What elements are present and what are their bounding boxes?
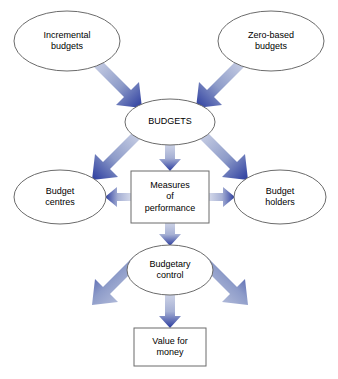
arrow-measures-to-budgetary-control [159,223,181,246]
node-shape-budgets [125,99,215,145]
node-shape-zero-based-budgets [218,11,324,71]
node-shape-measures-of-performance [131,171,209,223]
node-shape-incremental-budgets [14,11,120,71]
arrow-budgetary-control-to-value-for-money [159,295,181,328]
diagram-canvas: Incremental budgets Zero-based budgets B… [0,0,338,379]
node-shape-budgetary-control [127,245,213,295]
node-shape-budget-centres [14,170,106,224]
arrow-measures-to-budget-holders [209,187,235,207]
node-shape-value-for-money [134,328,206,366]
arrow-incremental-to-budgets [94,60,142,108]
arrow-zero-based-to-budgets [196,60,244,108]
diagram-graphics [0,0,338,379]
cropped-caption-strip [0,369,338,379]
arrow-budgets-to-measures [159,145,181,171]
arrow-measures-to-budget-centres [105,187,131,207]
node-shape-budget-holders [234,170,326,224]
